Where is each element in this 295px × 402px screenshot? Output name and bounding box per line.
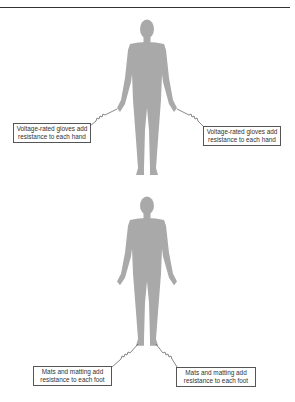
label-line: Mats and matting add [36,368,109,376]
resistor-zigzag-icon [156,344,177,367]
label-line: resistance to each hand [206,136,278,144]
label-left-foot: Mats and matting add resistance to each … [33,366,112,386]
label-line: resistance to each hand [16,133,88,141]
label-right-foot: Mats and matting add resistance to each … [176,367,256,387]
resistor-zigzag-icon [90,109,117,126]
label-line: resistance to each foot [36,376,109,384]
label-left-hand: Voltage-rated gloves add resistance to e… [13,123,91,143]
resistor-zigzag-icon [177,109,204,127]
label-line: Voltage-rated gloves add [206,128,278,136]
resistor-zigzag-icon [112,344,138,367]
diagram-canvas [0,0,295,402]
label-line: Mats and matting add [179,369,253,377]
label-right-hand: Voltage-rated gloves add resistance to e… [203,126,281,146]
human-silhouette-icon [117,20,177,176]
label-line: resistance to each foot [179,377,253,385]
label-line: Voltage-rated gloves add [16,125,88,133]
human-silhouette-icon [117,197,177,346]
